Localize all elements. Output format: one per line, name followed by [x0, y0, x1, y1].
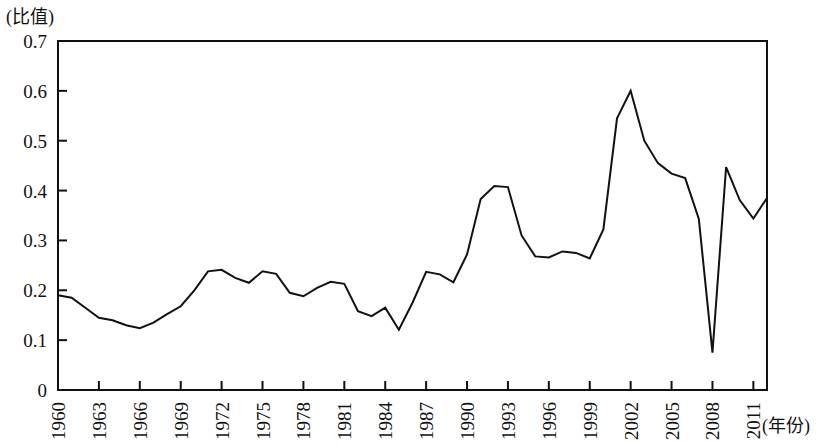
- y-axis-tick-label: 0.1: [23, 330, 47, 351]
- x-axis-tick-label: 1978: [293, 402, 314, 440]
- x-axis-tick-label: 1963: [89, 402, 110, 440]
- x-axis-tick-label: 2002: [621, 402, 642, 440]
- x-axis-tick-label: 1987: [416, 402, 437, 440]
- x-axis-tick-label: 1996: [539, 402, 560, 440]
- x-axis-tick-label: 1972: [212, 402, 233, 440]
- x-axis-tick-label: 1960: [48, 402, 69, 440]
- x-axis-unit-label: (年份): [762, 411, 810, 437]
- y-axis-tick-label: 0.6: [23, 81, 47, 102]
- y-axis-tick-label: 0.3: [23, 230, 47, 251]
- x-axis-tick-label: 1993: [498, 402, 519, 440]
- y-axis-tick-label: 0: [38, 380, 48, 401]
- data-series-line: [58, 91, 767, 353]
- x-axis-tick-label: 2005: [662, 402, 683, 440]
- x-axis-tick-label: 1975: [253, 402, 274, 440]
- x-axis-tick-label: 1969: [171, 402, 192, 440]
- y-axis-tick-label: 0.4: [23, 181, 47, 202]
- x-axis-tick-label: 2008: [702, 402, 723, 440]
- y-axis-tick-label: 0.2: [23, 280, 47, 301]
- x-axis-tick-label: 1966: [130, 402, 151, 440]
- x-axis-tick-label: 1999: [580, 402, 601, 440]
- chart-container: (比值) 0.70.60.50.40.30.20.101960196319661…: [0, 0, 827, 442]
- x-axis-tick-label: 1981: [334, 402, 355, 440]
- x-axis-tick-label: 1984: [375, 402, 396, 441]
- y-axis: 0.70.60.50.40.30.20.10: [23, 31, 67, 401]
- line-chart-plot: 0.70.60.50.40.30.20.10196019631966196919…: [0, 0, 827, 442]
- plot-frame: [58, 41, 767, 390]
- y-axis-tick-label: 0.5: [23, 131, 47, 152]
- y-axis-tick-label: 0.7: [23, 31, 47, 52]
- x-axis-tick-label: 1990: [457, 402, 478, 440]
